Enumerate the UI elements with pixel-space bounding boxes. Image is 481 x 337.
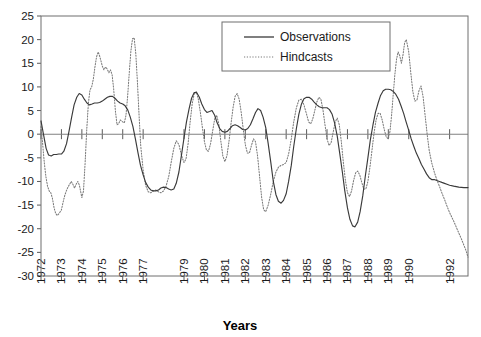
x-tick-label: 1989	[382, 258, 394, 284]
x-tick-label: 1984	[280, 258, 292, 284]
x-tick-label: 1980	[198, 258, 210, 284]
x-tick-label: 1975	[96, 258, 108, 284]
y-tick-label: 20	[21, 34, 34, 46]
x-tick-label: 1985	[301, 258, 313, 284]
x-tick-label: 1990	[403, 258, 415, 284]
y-tick-label: 0	[28, 128, 34, 140]
legend-label-observations: Observations	[280, 30, 351, 44]
x-axis-title: Years	[223, 318, 258, 333]
y-tick-label: 25	[21, 10, 34, 22]
x-tick-label: 1982	[239, 258, 251, 284]
x-tick-label: 1988	[362, 258, 374, 284]
x-tick-label: 1981	[219, 258, 231, 284]
x-tick-label: 1983	[260, 258, 272, 284]
y-tick-label: -5	[24, 152, 34, 164]
y-tick-label: -10	[17, 175, 34, 187]
chart-container: 2520151050-5-10-15-20-25-30 197219731974…	[0, 0, 481, 337]
y-tick-label: -30	[17, 270, 34, 282]
y-tick-label: -20	[17, 223, 34, 235]
timeseries-chart: 2520151050-5-10-15-20-25-30 197219731974…	[0, 0, 481, 337]
x-tick-label: 1977	[137, 258, 149, 284]
y-tick-label: 15	[21, 57, 34, 69]
y-tick-label: -25	[17, 246, 34, 258]
y-tick-label: 5	[28, 105, 34, 117]
chart-legend: Observations Hindcasts	[222, 22, 390, 71]
x-tick-label: 1976	[117, 258, 129, 284]
x-axis-labels: 1972197319741975197619771979198019811982…	[35, 258, 456, 284]
x-tick-label: 1987	[341, 258, 353, 284]
x-tick-label: 1992	[444, 258, 456, 284]
x-tick-label: 1979	[178, 258, 190, 284]
x-tick-label: 1974	[76, 258, 88, 284]
y-tick-label: 10	[21, 81, 34, 93]
legend-label-hindcasts: Hindcasts	[280, 50, 333, 64]
y-tick-label: -15	[17, 199, 34, 211]
x-tick-label: 1973	[55, 258, 67, 284]
x-tick-label: 1986	[321, 258, 333, 284]
